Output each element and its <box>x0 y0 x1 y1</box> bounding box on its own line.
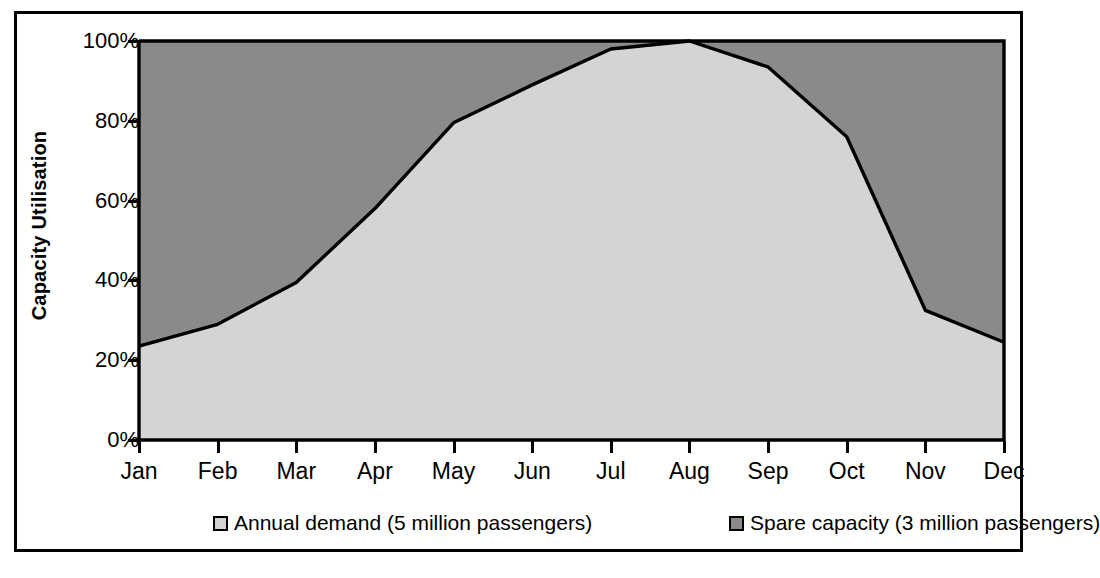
legend-label: Spare capacity (3 million passengers) <box>750 511 1100 535</box>
chart-frame: Capacity Utilisation 0%20%40%60%80%100% … <box>14 11 1023 552</box>
chart-plot-wrapper: Capacity Utilisation 0%20%40%60%80%100% … <box>17 14 1020 549</box>
x-axis-tick-mark <box>531 441 534 453</box>
x-axis-tick-label: Mar <box>251 458 341 485</box>
x-axis-tick-mark <box>688 441 691 453</box>
x-axis-tick-marks <box>17 441 1020 455</box>
x-axis-tick-label: Jan <box>94 458 184 485</box>
x-axis-tick-mark <box>217 441 220 453</box>
x-axis-tick-mark <box>374 441 377 453</box>
x-axis-tick-label: May <box>409 458 499 485</box>
x-axis-tick-label: Oct <box>802 458 892 485</box>
x-axis-tick-label: Sep <box>723 458 813 485</box>
legend-item[interactable]: Spare capacity (3 million passengers) <box>729 511 1100 535</box>
x-axis-tick-label: Dec <box>959 458 1049 485</box>
x-axis-tick-mark <box>767 441 770 453</box>
legend-label: Annual demand (5 million passengers) <box>234 511 592 535</box>
x-axis-tick-mark <box>453 441 456 453</box>
x-axis-tick-label: Jun <box>487 458 577 485</box>
x-axis-tick-mark <box>846 441 849 453</box>
x-axis-tick-mark <box>1003 441 1006 453</box>
x-axis-tick-label: Apr <box>330 458 420 485</box>
x-axis-tick-labels: JanFebMarAprMayJunJulAugSepOctNovDec <box>17 458 1020 492</box>
x-axis-tick-mark <box>138 441 141 453</box>
x-axis-tick-label: Nov <box>880 458 970 485</box>
x-axis-tick-label: Jul <box>566 458 656 485</box>
x-axis-tick-label: Feb <box>173 458 263 485</box>
chart-legend: Annual demand (5 million passengers)Spar… <box>17 503 1020 543</box>
x-axis-tick-mark <box>610 441 613 453</box>
x-axis-tick-mark <box>295 441 298 453</box>
x-axis-tick-label: Aug <box>644 458 734 485</box>
x-axis-tick-mark <box>924 441 927 453</box>
legend-swatch-icon <box>213 516 228 531</box>
legend-item[interactable]: Annual demand (5 million passengers) <box>213 511 592 535</box>
legend-swatch-icon <box>729 516 744 531</box>
